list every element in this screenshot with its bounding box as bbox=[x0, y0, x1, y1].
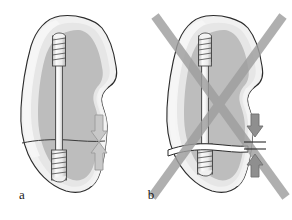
screw-proximal-threads bbox=[53, 33, 66, 66]
screw-distal-threads bbox=[52, 150, 67, 182]
panel-label-b: b bbox=[148, 187, 155, 202]
bone-fixation-figure: a bbox=[0, 0, 292, 220]
screw-proximal-threads bbox=[199, 33, 212, 66]
figure-root: a bbox=[0, 0, 292, 220]
screw-shaft bbox=[56, 56, 63, 166]
panel-label-a: a bbox=[19, 187, 25, 202]
